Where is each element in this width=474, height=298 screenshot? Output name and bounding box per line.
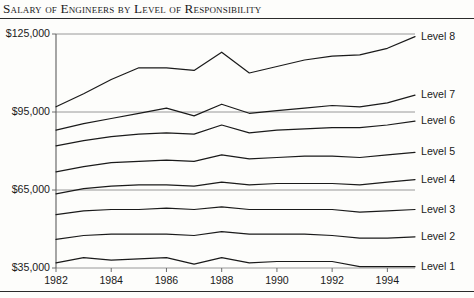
series-label-level-8: Level 8 [421,30,455,42]
x-axis-label: 1982 [29,274,83,286]
series-label-level-7: Level 7 [421,88,455,100]
chart-root: Salary of Engineers by Level of Responsi… [0,0,474,298]
series-label-level-4: Level 4 [421,173,455,185]
x-axis-label: 1992 [305,274,359,286]
series-line-level-7 [56,95,415,130]
bottom-divider [0,291,474,292]
series-label-level-3: Level 3 [421,203,455,215]
plot-svg [0,0,474,298]
series-line-level-8 [56,37,415,107]
series-line-level-1 [56,258,415,267]
x-axis-label: 1986 [139,274,193,286]
series-line-level-3 [56,207,415,215]
y-axis-label: $125,000 [0,27,50,39]
series-label-level-6: Level 6 [421,114,455,126]
y-axis-label: $95,000 [0,105,50,117]
x-axis-label: 1994 [360,274,414,286]
series-line-level-6 [56,121,415,146]
x-axis-label: 1988 [195,274,249,286]
series-label-level-2: Level 2 [421,230,455,242]
y-axis-label: $65,000 [0,183,50,195]
plot-area [0,0,474,298]
y-axis-label: $35,000 [0,261,50,273]
x-tick-marks [56,268,387,272]
series-label-level-1: Level 1 [421,260,455,272]
x-axis-label: 1990 [250,274,304,286]
series-line-level-4 [56,180,415,194]
y-tick-marks [52,34,56,268]
series-line-level-2 [56,232,415,240]
x-axis-label: 1984 [84,274,138,286]
series-lines [56,37,415,267]
series-line-level-5 [56,152,415,172]
series-label-level-5: Level 5 [421,145,455,157]
